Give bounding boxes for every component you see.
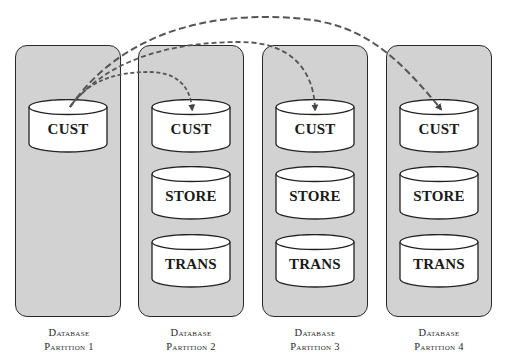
- partition-2-caption: Database Partition 2: [131, 326, 251, 354]
- caption-line: Database: [131, 326, 251, 340]
- partition-4-trans-cylinder: TRANS: [399, 234, 479, 288]
- partition-1-cust-cylinder: CUST: [28, 99, 108, 153]
- partition-3-trans-cylinder: TRANS: [275, 234, 355, 288]
- partition-2-trans-cylinder: TRANS: [151, 234, 231, 288]
- partition-3-caption: Database Partition 3: [255, 326, 375, 354]
- caption-line: Partition 4: [379, 340, 499, 354]
- caption-line: Database: [255, 326, 375, 340]
- caption-line: Partition 3: [255, 340, 375, 354]
- table-label: CUST: [151, 121, 231, 138]
- arrow-to-partition-4: [70, 17, 440, 108]
- partition-4-cust-cylinder: CUST: [399, 99, 479, 153]
- partition-3-store-cylinder: STORE: [275, 166, 355, 220]
- partition-3-cust-cylinder: CUST: [275, 99, 355, 153]
- partition-2-store-cylinder: STORE: [151, 166, 231, 220]
- table-label: STORE: [151, 188, 231, 205]
- caption-line: Database: [379, 326, 499, 340]
- table-label: TRANS: [275, 256, 355, 273]
- partition-1-caption: Database Partition 1: [9, 326, 129, 354]
- caption-line: Database: [9, 326, 129, 340]
- partition-4-caption: Database Partition 4: [379, 326, 499, 354]
- partition-4-store-cylinder: STORE: [399, 166, 479, 220]
- diagram-canvas: CUST Database Partition 1 CUST STORE TRA…: [0, 0, 509, 362]
- table-label: CUST: [28, 121, 108, 138]
- table-label: STORE: [275, 188, 355, 205]
- partition-1-box: [15, 45, 121, 317]
- table-label: CUST: [275, 121, 355, 138]
- caption-line: Partition 2: [131, 340, 251, 354]
- partition-2-cust-cylinder: CUST: [151, 99, 231, 153]
- caption-line: Partition 1: [9, 340, 129, 354]
- table-label: TRANS: [399, 256, 479, 273]
- table-label: TRANS: [151, 256, 231, 273]
- table-label: CUST: [399, 121, 479, 138]
- table-label: STORE: [399, 188, 479, 205]
